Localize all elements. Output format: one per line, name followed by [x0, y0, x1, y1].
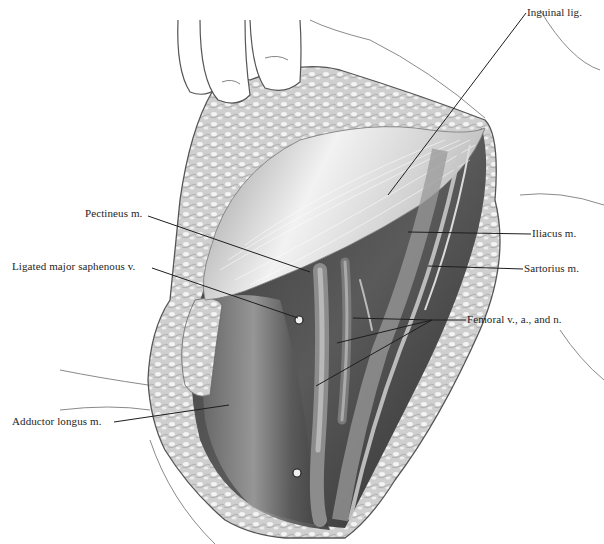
label-inguinal-lig: Inguinal lig. — [527, 6, 582, 19]
retracting-fingers — [178, 20, 301, 103]
label-saphenous: Ligated major saphenous v. — [12, 260, 135, 273]
label-iliacus: Iliacus m. — [532, 227, 576, 240]
label-adductor-longus: Adductor longus m. — [12, 415, 102, 428]
label-sartorius: Sartorius m. — [524, 262, 579, 275]
label-femoral: Femoral v., a., and n. — [467, 313, 562, 326]
label-pectineus: Pectineus m. — [85, 207, 142, 220]
anatomy-figure: Inguinal lig.Pectineus m.Ligated major s… — [0, 0, 604, 544]
